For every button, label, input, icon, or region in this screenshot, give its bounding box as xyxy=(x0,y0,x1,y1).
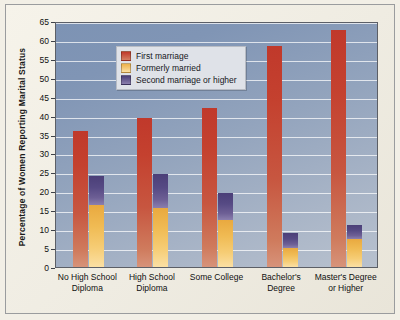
legend-swatch-icon-formerly-married xyxy=(121,63,131,73)
bar-segment-formerly-married xyxy=(347,239,362,267)
legend-swatch-icon-second-marriage xyxy=(121,75,131,85)
gridline xyxy=(56,42,377,43)
bar-segment-second-marriage xyxy=(153,174,168,208)
y-tick-label: 10 xyxy=(23,225,49,235)
chart-page: Percentage of Women Reporting Marital St… xyxy=(0,0,400,320)
bar-stacked-marital-status xyxy=(89,176,104,267)
y-tick-label: 35 xyxy=(23,131,49,141)
y-tick-label: 40 xyxy=(23,112,49,122)
bar-stacked-marital-status xyxy=(218,193,233,267)
y-tick-label: 20 xyxy=(23,187,49,197)
legend-label: Formerly married xyxy=(136,63,201,73)
y-tick-label: 0 xyxy=(23,263,49,273)
legend: First marriage Formerly married Second m… xyxy=(116,46,246,90)
legend-swatch-icon-first-marriage xyxy=(121,51,131,61)
bar-first-marriage xyxy=(267,46,282,267)
gridline xyxy=(56,23,377,24)
x-tick-label-line: or Higher xyxy=(307,283,384,294)
bar-first-marriage xyxy=(137,118,152,267)
y-tick-label: 55 xyxy=(23,55,49,65)
y-tick-label: 25 xyxy=(23,168,49,178)
bar-first-marriage xyxy=(202,108,217,267)
legend-item-formerly-married: Formerly married xyxy=(121,62,237,74)
bar-segment-second-marriage xyxy=(347,225,362,238)
bar-segment-formerly-married xyxy=(89,205,104,267)
y-tick-label: 45 xyxy=(23,93,49,103)
x-tick-label: Master's Degreeor Higher xyxy=(307,272,384,293)
bar-segment-second-marriage xyxy=(218,193,233,219)
plot-area: First marriage Formerly married Second m… xyxy=(55,22,378,268)
y-tick-label: 60 xyxy=(23,36,49,46)
bar-stacked-marital-status xyxy=(153,174,168,267)
y-tick-label: 5 xyxy=(23,244,49,254)
legend-label: Second marriage or higher xyxy=(136,75,237,85)
y-tick-label: 50 xyxy=(23,74,49,84)
bar-segment-second-marriage xyxy=(283,233,298,248)
x-tick-label-line: Master's Degree xyxy=(307,272,384,283)
legend-item-second-marriage: Second marriage or higher xyxy=(121,74,237,86)
bar-segment-formerly-married xyxy=(218,220,233,267)
x-tick-label-line: Diploma xyxy=(114,283,191,294)
legend-item-first-marriage: First marriage xyxy=(121,50,237,62)
bar-segment-formerly-married xyxy=(283,248,298,267)
y-tick-label: 15 xyxy=(23,206,49,216)
y-tick-mark xyxy=(51,268,55,269)
bar-first-marriage xyxy=(331,30,346,267)
gridline xyxy=(56,99,377,100)
y-tick-label: 30 xyxy=(23,149,49,159)
bar-stacked-marital-status xyxy=(347,225,362,267)
bar-first-marriage xyxy=(73,131,88,267)
bar-segment-second-marriage xyxy=(89,176,104,204)
y-tick-label: 65 xyxy=(23,17,49,27)
bar-stacked-marital-status xyxy=(283,233,298,267)
bar-segment-formerly-married xyxy=(153,208,168,267)
legend-label: First marriage xyxy=(136,51,188,61)
